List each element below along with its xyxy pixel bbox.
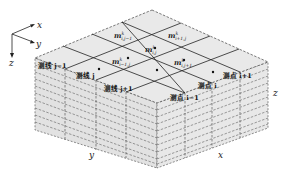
edge-label-x: x	[218, 150, 223, 160]
3d-grid-diagram: x y z	[0, 0, 284, 183]
survey-line-j: 测线 j	[76, 71, 95, 80]
survey-point-im1: 测点 i−1	[170, 93, 199, 102]
survey-line-jp1: 测线 j+1	[104, 84, 133, 93]
edge-label-z: z	[272, 88, 278, 98]
axis-y-label: y	[35, 39, 42, 49]
survey-point-ip1: 测点 i+1	[223, 71, 252, 80]
survey-point-i: 测点 i	[198, 81, 217, 90]
edge-label-y: y	[88, 150, 95, 160]
axis-x-label: x	[37, 20, 42, 30]
axis-z-label: z	[8, 58, 14, 68]
survey-line-jm1: 测线 j−1	[38, 61, 67, 70]
